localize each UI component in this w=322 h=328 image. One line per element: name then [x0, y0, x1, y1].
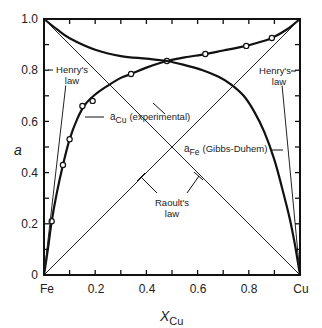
- x-tick-label: 0.2: [88, 282, 105, 296]
- annotation-text: law: [272, 76, 286, 87]
- data-point-marker: [67, 137, 72, 142]
- data-point-marker: [203, 51, 208, 56]
- annotation-text: Raoult's: [155, 197, 189, 208]
- acu-label: aCu(experimental): [85, 103, 190, 125]
- x-tick-label: Cu: [293, 282, 308, 296]
- x-tick-label: Fe: [40, 282, 54, 296]
- annotation-text: aFe(Gibbs-Duhem): [184, 143, 267, 157]
- data-point-marker: [128, 71, 133, 76]
- x-tick-label: 0.4: [139, 282, 156, 296]
- henry-s-law-cu-line: [44, 86, 66, 275]
- henry-s-law-fe-line: [282, 86, 300, 275]
- data-point-marker: [60, 162, 65, 167]
- annotation-text: Henry's: [56, 64, 88, 75]
- x-axis-label-main: X: [159, 308, 170, 324]
- y-tick-label: 0: [31, 268, 38, 282]
- annotation-text: aCu(experimental): [110, 111, 190, 125]
- y-tick-label: 1.0: [21, 12, 38, 26]
- y-tick-label: 0.2: [21, 217, 38, 231]
- data-point-marker: [244, 43, 249, 48]
- y-tick-label: 0.8: [21, 63, 38, 77]
- x-axis-label: XCu: [159, 308, 183, 327]
- y-tick-label: 0.6: [21, 115, 38, 129]
- raoults-law-label: Raoult's law: [137, 172, 203, 219]
- data-point-marker: [80, 103, 85, 108]
- annotation-text: law: [165, 208, 179, 219]
- x-tick-label: 0.6: [190, 282, 207, 296]
- annotation-text: law: [65, 75, 79, 86]
- data-point-marker: [90, 98, 95, 103]
- y-tick-label: 0.4: [21, 166, 38, 180]
- henrys-law-right-label: Henry's law: [259, 65, 296, 87]
- x-tick-label: 0.8: [241, 282, 258, 296]
- y-axis-label: a: [14, 142, 22, 158]
- data-point-marker: [269, 35, 274, 40]
- activity-chart: 0 0.2 0.4 0.6 0.8 1.0 Fe 0.2 0.4 0.6 0.8…: [0, 0, 322, 328]
- annotation-text: Henry's: [259, 65, 291, 76]
- x-axis-label-sub: Cu: [169, 315, 183, 327]
- henrys-law-left-label: Henry's law: [48, 64, 88, 86]
